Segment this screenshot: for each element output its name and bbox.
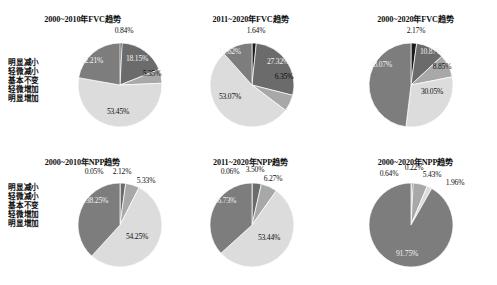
pie-chart-panel: 2000~2010年NPP趋势0.05%2.12%5.33%54.25%38.2… (0, 143, 165, 285)
pie-chart-panel: 2000~2020年FVC趋势2.17%10.87%8.85%30.05%48.… (333, 0, 497, 142)
slice-value-label: 0.06% (221, 167, 240, 176)
legend-item: 基本不变 (8, 201, 39, 210)
slice-value-label: 2.17% (407, 26, 426, 35)
chart-title: 2000~2020年FVC趋势 (333, 12, 497, 24)
slice-value-label: 53.45% (107, 107, 129, 116)
pie-chart-panel: 2011~2020年NPP趋势0.06%3.50%6.27%53.44%36.7… (168, 143, 333, 285)
legend-item: 明显增加 (8, 219, 39, 228)
slice-value-label: 36.73% (214, 196, 236, 205)
slice-value-label: 91.75% (396, 249, 418, 258)
chart-legend: 明显减小轻微减小基本不变轻微增加明显增加 (8, 58, 39, 103)
slice-value-label: 0.64% (380, 169, 399, 178)
slice-value-label: 3.50% (246, 165, 265, 174)
pie-graphic (208, 181, 296, 269)
slice-value-label: 8.85% (433, 62, 452, 71)
chart-title: 2000~2010年NPP趋势 (0, 155, 165, 167)
pie-graphic (76, 181, 164, 269)
pie-graphic (76, 41, 164, 129)
legend-item: 明显减小 (8, 58, 39, 67)
slice-value-label: 48.07% (370, 60, 392, 69)
slice-value-label: 0.84% (115, 26, 134, 35)
legend-item: 轻微减小 (8, 67, 39, 76)
slice-value-label: 5.35% (143, 69, 162, 78)
pie-chart-panel: 2011~2020年FVC趋势1.64%27.32%6.35%53.07%11.… (168, 0, 333, 142)
pie-chart-panel: 2000~2010年FVC趋势0.84%18.15%5.35%53.45%22.… (0, 0, 165, 142)
slice-value-label: 5.33% (137, 176, 156, 185)
slice-value-label: 10.87% (420, 47, 442, 56)
slice-value-label: 53.44% (258, 233, 280, 242)
slice-value-label: 0.05% (85, 167, 104, 176)
slice-value-label: 30.05% (421, 87, 443, 96)
slice-value-label: 38.25% (86, 196, 108, 205)
slice-value-label: 5.43% (423, 170, 442, 179)
slice-value-label: 18.15% (126, 54, 148, 63)
slice-value-label: 2.12% (113, 167, 132, 176)
slice-value-label: 1.96% (446, 178, 465, 187)
chart-title: 2000~2010年FVC趋势 (0, 12, 165, 24)
pie-chart-panel: 2000~2020年NPP趋势0.22%0.64%5.43%1.96%91.75… (333, 143, 497, 285)
slice-value-label: 22.21% (81, 56, 103, 65)
slice-value-label: 53.07% (219, 92, 241, 101)
slice-value-label: 6.35% (275, 72, 294, 81)
slice-value-label: 1.64% (247, 26, 266, 35)
slice-value-label: 11.62% (219, 47, 241, 56)
slice-value-label: 6.27% (264, 174, 283, 183)
legend-item: 轻微增加 (8, 210, 39, 219)
legend-item: 轻微增加 (8, 85, 39, 94)
legend-item: 基本不变 (8, 76, 39, 85)
slice-value-label: 54.25% (126, 232, 148, 241)
pie-slice (406, 77, 453, 127)
slice-value-label: 27.32% (267, 57, 289, 66)
slice-value-label: 0.22% (405, 163, 424, 172)
legend-item: 明显减小 (8, 183, 39, 192)
chart-title: 2011~2020年FVC趋势 (168, 12, 333, 24)
pie-slice (369, 43, 411, 127)
legend-item: 明显增加 (8, 94, 39, 103)
legend-item: 轻微减小 (8, 192, 39, 201)
pie-chart-grid: 2000~2010年FVC趋势0.84%18.15%5.35%53.45%22.… (0, 0, 497, 285)
chart-legend: 明显减小轻微减小基本不变轻微增加明显增加 (8, 183, 39, 228)
